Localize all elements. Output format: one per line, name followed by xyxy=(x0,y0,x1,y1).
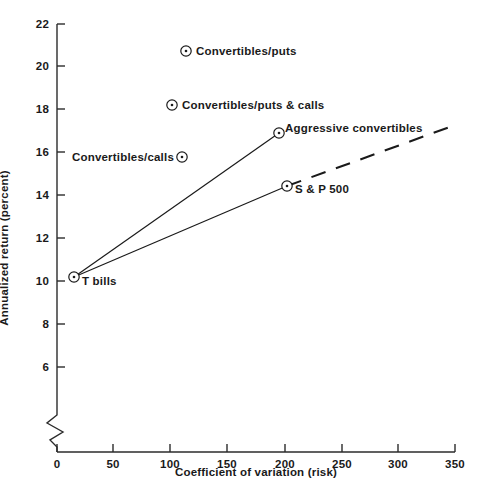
marker-sp500 xyxy=(282,181,292,191)
point-label-sp500: S & P 500 xyxy=(295,183,349,195)
x-tick-label-300: 300 xyxy=(388,458,408,470)
marker-t-bills xyxy=(69,272,79,282)
x-axis-ticks xyxy=(57,444,455,452)
axis-lines xyxy=(47,24,455,452)
marker-convertibles-puts xyxy=(181,46,191,56)
point-label-convertibles-puts: Convertibles/puts xyxy=(196,45,297,57)
y-axis-ticks xyxy=(57,24,65,367)
x-tick-label-350: 350 xyxy=(445,458,465,470)
y-tick-label-6: 6 xyxy=(0,361,49,373)
y-axis-title: Annualized return (percent) xyxy=(0,138,10,358)
point-label-convertibles-calls: Convertibles/calls xyxy=(0,151,174,163)
y-axis-break-symbol xyxy=(47,410,63,452)
chart-container: 22 20 18 16 14 12 10 8 6 0 50 100 150 20… xyxy=(0,0,489,496)
marker-aggressive-convertibles xyxy=(274,128,284,138)
x-tick-label-0: 0 xyxy=(54,458,61,470)
y-tick-label-18: 18 xyxy=(0,103,49,115)
x-axis-title: Coefficient of variation (risk) xyxy=(175,466,337,478)
point-label-aggressive-convertibles: Aggressive convertibles xyxy=(285,122,423,134)
series-lines xyxy=(74,124,458,277)
marker-convertibles-calls xyxy=(177,152,187,162)
chart-plot-area xyxy=(0,0,489,496)
marker-convertibles-puts-calls xyxy=(167,100,177,110)
y-tick-label-22: 22 xyxy=(0,18,49,30)
point-label-t-bills: T bills xyxy=(82,275,117,287)
line-tbills-sp500 xyxy=(74,186,287,277)
point-label-convertibles-puts-calls: Convertibles/puts & calls xyxy=(182,99,324,111)
y-tick-label-20: 20 xyxy=(0,60,49,72)
data-point-markers xyxy=(69,46,292,282)
x-tick-label-50: 50 xyxy=(106,458,119,470)
